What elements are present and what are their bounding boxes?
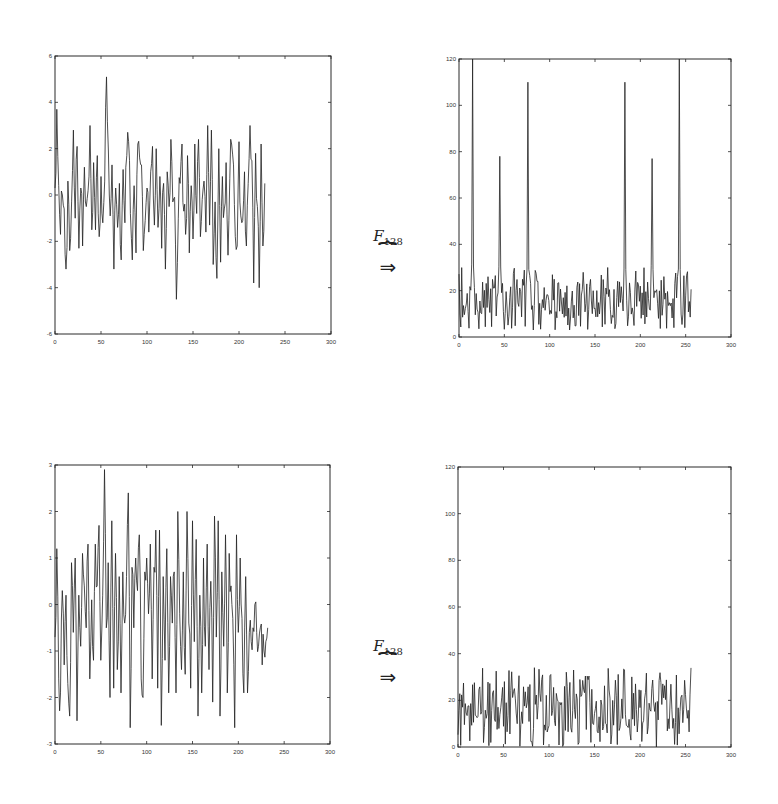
y-tick-label: 1: [49, 555, 53, 561]
x-tick-label: 150: [188, 339, 199, 345]
chart-bottom-left: 050100150200250300-3-2-10123: [0, 410, 360, 780]
overbrace-icon: ⏞: [340, 247, 436, 257]
x-tick-label: 50: [97, 749, 104, 755]
x-tick-label: 300: [726, 342, 737, 348]
line-plot-bottom-right: 050100150200250300020406080100120: [400, 410, 778, 780]
y-tick-label: -4: [47, 285, 53, 291]
y-tick-label: -1: [47, 648, 53, 654]
x-tick-label: 100: [142, 339, 153, 345]
x-tick-label: 100: [142, 749, 153, 755]
y-tick-label: 0: [453, 334, 457, 340]
y-tick-label: 6: [49, 53, 53, 59]
y-tick-label: 120: [445, 464, 456, 470]
line-plot-top-left: 050100150200250300-6-4-20246: [0, 0, 360, 370]
x-tick-label: 100: [544, 752, 555, 758]
x-tick-label: 50: [98, 339, 105, 345]
x-tick-label: 150: [187, 749, 198, 755]
y-tick-label: 3: [49, 462, 53, 468]
x-tick-label: 100: [545, 342, 556, 348]
overbrace-icon: ⏞: [340, 657, 436, 667]
y-tick-label: 20: [448, 697, 455, 703]
y-tick-label: 0: [49, 602, 53, 608]
y-tick-label: -2: [47, 238, 53, 244]
y-tick-label: 2: [49, 509, 53, 515]
y-tick-label: 80: [448, 557, 455, 563]
y-tick-label: 0: [452, 744, 456, 750]
x-tick-label: 250: [280, 339, 291, 345]
x-tick-label: 200: [635, 752, 646, 758]
chart-top-right: 050100150200250300020406080100120: [400, 0, 778, 370]
y-tick-label: -3: [47, 741, 53, 747]
x-tick-label: 300: [726, 752, 737, 758]
x-tick-label: 0: [457, 342, 461, 348]
transform-arrow-bottom: F128 ⏞ ⇒: [358, 637, 418, 687]
x-tick-label: 250: [680, 752, 691, 758]
y-tick-label: 40: [449, 241, 456, 247]
plot-frame: [55, 465, 330, 744]
x-tick-label: 0: [53, 749, 57, 755]
x-tick-label: 0: [53, 339, 57, 345]
y-tick-label: -6: [47, 331, 53, 337]
y-tick-label: 4: [49, 99, 53, 105]
chart-top-left: 050100150200250300-6-4-20246: [0, 0, 360, 370]
y-tick-label: 40: [448, 651, 455, 657]
signal-trace: [55, 470, 268, 728]
line-plot-top-right: 050100150200250300020406080100120: [400, 0, 778, 370]
x-tick-label: 200: [234, 339, 245, 345]
x-tick-label: 150: [589, 752, 600, 758]
x-tick-label: 250: [279, 749, 290, 755]
y-tick-label: 2: [49, 146, 53, 152]
x-tick-label: 300: [326, 339, 337, 345]
signal-trace: [459, 59, 691, 330]
y-tick-label: 80: [449, 149, 456, 155]
chart-bottom-right: 050100150200250300020406080100120: [400, 410, 778, 780]
y-tick-label: 100: [445, 511, 456, 517]
y-tick-label: 0: [49, 192, 53, 198]
transform-arrow-top: F128 ⏞ ⇒: [358, 227, 418, 277]
y-tick-label: 20: [449, 288, 456, 294]
signal-trace: [458, 668, 691, 747]
y-tick-label: 100: [446, 102, 457, 108]
y-tick-label: -2: [47, 695, 53, 701]
x-tick-label: 150: [590, 342, 601, 348]
x-tick-label: 200: [635, 342, 646, 348]
x-tick-label: 50: [500, 752, 507, 758]
x-tick-label: 200: [233, 749, 244, 755]
x-tick-label: 0: [456, 752, 460, 758]
y-tick-label: 120: [446, 56, 457, 62]
y-tick-label: 60: [448, 604, 455, 610]
x-tick-label: 250: [681, 342, 692, 348]
signal-trace: [55, 77, 265, 299]
x-tick-label: 300: [325, 749, 336, 755]
x-tick-label: 50: [501, 342, 508, 348]
line-plot-bottom-left: 050100150200250300-3-2-10123: [0, 410, 360, 780]
y-tick-label: 60: [449, 195, 456, 201]
